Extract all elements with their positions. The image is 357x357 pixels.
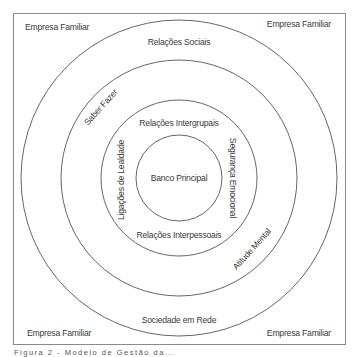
middle-ring-label-saber-fazer: Saber Fazer (82, 87, 120, 127)
corner-label-bottom-right: Empresa Familiar (267, 328, 331, 338)
inner-ring-label-left: Ligações de Lealdade (116, 140, 126, 221)
corner-label-bottom-left: Empresa Familiar (27, 328, 91, 338)
inner-ring-label-bottom: Relações Interpessoais (137, 230, 222, 240)
middle-ring-label-atitude-mental: Atitude Mental (231, 226, 274, 272)
corner-label-top-left: Empresa Familiar (25, 22, 89, 32)
center-label: Banco Principal (151, 173, 208, 183)
outer-ring-label-top: Relações Sociais (148, 37, 211, 47)
figure-caption: Figura 2 - Modelo de Gestão da... (14, 348, 176, 357)
inner-ring-label-top: Relações Intergrupais (139, 118, 218, 128)
corner-label-top-right: Empresa Familiar (267, 19, 331, 29)
outer-ring-label-bottom: Sociedade em Rede (142, 315, 217, 325)
inner-ring-label-right: Segurança Emocional (228, 138, 238, 219)
